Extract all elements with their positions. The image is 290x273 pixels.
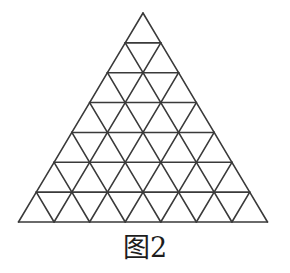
lattice-right-diagonal-6-4 [179, 192, 197, 222]
lattice-left-diagonal-3-1 [107, 103, 125, 133]
lattice-right-diagonal-3-2 [161, 103, 179, 133]
lattice-right-diagonal-4-3 [179, 132, 197, 162]
lattice-right-diagonal-5-0 [54, 162, 72, 192]
figure-container: 图2 [0, 0, 290, 273]
lattice-line-group [19, 13, 268, 222]
lattice-right-diagonal-3-1 [125, 103, 143, 133]
lattice-right-diagonal-5-2 [125, 162, 143, 192]
lattice-left-diagonal-2-1 [125, 73, 143, 103]
lattice-left-diagonal-4-1 [90, 132, 108, 162]
lattice-left-diagonal-1-0 [107, 43, 125, 73]
lattice-left-diagonal-6-4 [161, 192, 179, 222]
lattice-left-diagonal-5-0 [36, 162, 54, 192]
lattice-right-diagonal-3-0 [90, 103, 108, 133]
lattice-left-diagonal-4-4 [196, 132, 214, 162]
lattice-left-diagonal-5-5 [214, 162, 232, 192]
lattice-right-diagonal-6-3 [143, 192, 161, 222]
lattice-right-diagonal-2-2 [179, 73, 197, 103]
lattice-right-diagonal-0-0 [143, 13, 161, 43]
lattice-left-diagonal-6-5 [196, 192, 214, 222]
lattice-right-diagonal-6-5 [214, 192, 232, 222]
lattice-left-diagonal-5-3 [143, 162, 161, 192]
lattice-right-diagonal-5-5 [232, 162, 250, 192]
lattice-left-diagonal-0-0 [125, 13, 143, 43]
lattice-right-diagonal-5-1 [90, 162, 108, 192]
lattice-left-diagonal-5-4 [179, 162, 197, 192]
lattice-left-diagonal-6-3 [125, 192, 143, 222]
figure-caption: 图2 [0, 231, 290, 265]
lattice-left-diagonal-3-2 [143, 103, 161, 133]
lattice-right-diagonal-4-4 [214, 132, 232, 162]
lattice-right-diagonal-2-1 [143, 73, 161, 103]
lattice-left-diagonal-3-0 [72, 103, 90, 133]
lattice-left-diagonal-4-3 [161, 132, 179, 162]
lattice-right-diagonal-1-1 [161, 43, 179, 73]
lattice-left-diagonal-5-2 [107, 162, 125, 192]
lattice-right-diagonal-6-0 [36, 192, 54, 222]
lattice-right-diagonal-4-0 [72, 132, 90, 162]
lattice-left-diagonal-6-1 [54, 192, 72, 222]
lattice-left-diagonal-1-1 [143, 43, 161, 73]
lattice-right-diagonal-3-3 [196, 103, 214, 133]
lattice-left-diagonal-2-0 [90, 73, 108, 103]
lattice-right-diagonal-6-1 [72, 192, 90, 222]
lattice-right-diagonal-5-3 [161, 162, 179, 192]
lattice-left-diagonal-3-3 [179, 103, 197, 133]
lattice-right-diagonal-6-2 [107, 192, 125, 222]
lattice-right-diagonal-6-6 [250, 192, 268, 222]
lattice-left-diagonal-4-2 [125, 132, 143, 162]
lattice-left-diagonal-5-1 [72, 162, 90, 192]
lattice-right-diagonal-1-0 [125, 43, 143, 73]
lattice-left-diagonal-6-0 [19, 192, 37, 222]
lattice-right-diagonal-5-4 [196, 162, 214, 192]
lattice-left-diagonal-2-2 [161, 73, 179, 103]
lattice-right-diagonal-2-0 [107, 73, 125, 103]
lattice-left-diagonal-6-6 [232, 192, 250, 222]
lattice-left-diagonal-6-2 [90, 192, 108, 222]
lattice-right-diagonal-4-1 [107, 132, 125, 162]
lattice-left-diagonal-4-0 [54, 132, 72, 162]
lattice-right-diagonal-4-2 [143, 132, 161, 162]
